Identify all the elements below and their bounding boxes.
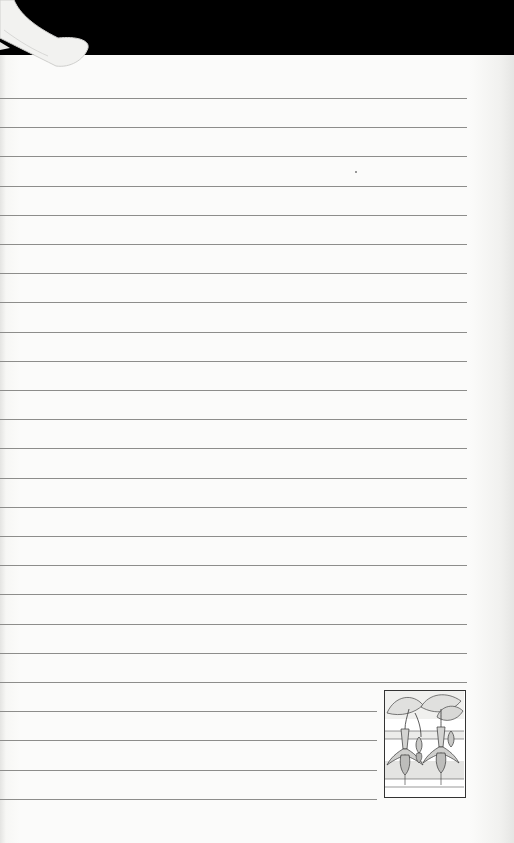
ruled-line (0, 215, 467, 216)
ruled-line (0, 653, 467, 654)
ruled-line (0, 390, 467, 391)
fuchsia-flowers-icon (385, 691, 464, 796)
ruled-line (0, 799, 377, 800)
ruled-line (0, 770, 377, 771)
ruled-line (0, 682, 467, 683)
ruled-line (0, 244, 467, 245)
ribbon-icon (0, 0, 100, 70)
ruled-line (0, 156, 467, 157)
ruled-line (0, 507, 467, 508)
ruled-line (0, 273, 467, 274)
paper-speck (355, 171, 357, 173)
ruled-line (0, 740, 377, 741)
ruled-line (0, 186, 467, 187)
ruled-line (0, 448, 467, 449)
ruled-line (0, 127, 467, 128)
ruled-line (0, 536, 467, 537)
ruled-line (0, 565, 467, 566)
ruled-line (0, 332, 467, 333)
ruled-line (0, 594, 467, 595)
fuchsia-illustration (384, 690, 466, 798)
ruled-line (0, 711, 377, 712)
ruled-line (0, 361, 467, 362)
ruled-line (0, 98, 467, 99)
ruled-line (0, 624, 467, 625)
ruled-line (0, 478, 467, 479)
ruled-line (0, 302, 467, 303)
ruled-line (0, 419, 467, 420)
